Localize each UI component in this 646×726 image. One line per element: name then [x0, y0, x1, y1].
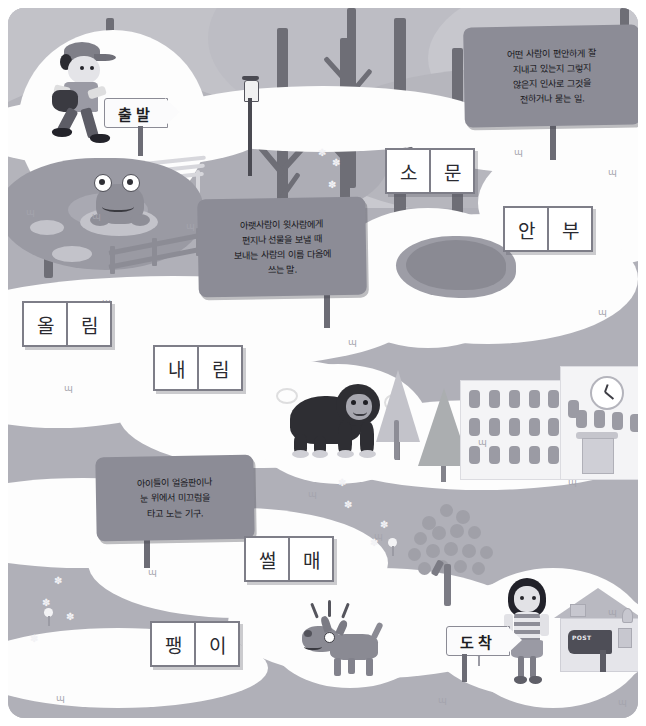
- word-cell[interactable]: 매: [288, 538, 332, 580]
- sign-line: 않은지 인사로 그것을: [513, 75, 591, 92]
- word-cell[interactable]: 림: [66, 303, 110, 345]
- window: [489, 418, 500, 436]
- word-cell[interactable]: 썰: [246, 538, 288, 580]
- word-box-paengi[interactable]: 팽 이: [150, 621, 240, 667]
- word-box-ollim[interactable]: 올 림: [22, 301, 112, 347]
- sign-line: 타고 노는 기구.: [147, 505, 204, 521]
- grass-tuft: ɰ: [568, 478, 577, 487]
- window: [548, 446, 559, 464]
- sign-line: 아랫사람이 윗사람에게: [240, 216, 323, 233]
- definition-sign-greeting-text: 어떤 사람이 편안하게 잘 지내고 있는지 그렇지 않은지 인사로 그것을 전하…: [463, 24, 638, 127]
- grass-tuft: ɰ: [438, 696, 447, 705]
- house: POST: [556, 588, 638, 674]
- window: [469, 418, 480, 436]
- window: [469, 390, 480, 408]
- school-building: [460, 366, 638, 478]
- snow-icon: ✽: [338, 478, 346, 488]
- clock-icon: [590, 376, 624, 410]
- sign-line: 어떤 사람이 편안하게 잘: [507, 45, 596, 62]
- barking-dog: [294, 600, 404, 680]
- window: [548, 418, 559, 436]
- snow-icon: ✽: [328, 180, 336, 190]
- puff-icon: [276, 388, 298, 404]
- window: [489, 390, 500, 408]
- bark-line: [341, 603, 350, 619]
- word-cell[interactable]: 소: [387, 150, 429, 192]
- snow-icon: ✽: [54, 576, 62, 586]
- worksheet-page: POST ɰ ɰ ɰ ɰ ɰ ɰ ɰ ɰ ɰ ɰ ɰ ɰ ɰ ɰ ɰ ɰ ɰ ɰ…: [0, 0, 646, 726]
- lily-pad: [30, 220, 64, 235]
- bark-line: [328, 600, 331, 617]
- word-cell[interactable]: 안: [505, 208, 547, 250]
- word-cell[interactable]: 이: [194, 623, 238, 665]
- start-sign: 출발: [104, 98, 188, 156]
- window: [548, 390, 559, 408]
- window: [489, 446, 500, 464]
- sign-line: 편지나 선물을 보낼 때: [241, 231, 322, 248]
- snow-icon: ✽: [66, 612, 74, 622]
- definition-sign-ollim-text: 아랫사람이 윗사람에게 편지나 선물을 보낼 때 보내는 사람의 이름 다음에 …: [197, 197, 367, 298]
- sign-line: 지내고 있는지 그렇지: [513, 60, 591, 77]
- start-sign-label: 출발: [104, 98, 168, 128]
- snow-icon: ✽: [332, 158, 340, 168]
- grass-tuft: ɰ: [56, 694, 65, 703]
- school-door[interactable]: [582, 438, 614, 474]
- grass-tuft: ɰ: [478, 438, 487, 447]
- window: [509, 446, 520, 464]
- grass-tuft: ɰ: [186, 222, 195, 231]
- grass-tuft: ɰ: [598, 308, 607, 317]
- bark-line: [310, 603, 319, 619]
- window: [529, 390, 540, 408]
- sign-line: 쓰는 말.: [267, 262, 297, 278]
- cave-interior: [406, 240, 506, 290]
- definition-sign-ollim: 아랫사람이 윗사람에게 편지나 선물을 보낼 때 보내는 사람의 이름 다음에 …: [198, 198, 368, 326]
- bell-icon: [622, 608, 633, 623]
- finish-sign-label: 도착: [446, 626, 510, 656]
- snow-icon: ✽: [42, 598, 50, 608]
- snow-icon: ✽: [30, 634, 38, 644]
- word-cell[interactable]: 부: [547, 208, 591, 250]
- mailbox-post: [600, 650, 606, 672]
- sign-line: 아이들이 얼음판이나: [137, 475, 212, 491]
- grass-tuft: ɰ: [348, 338, 357, 347]
- word-cell[interactable]: 림: [197, 347, 241, 389]
- grass-tuft: ɰ: [92, 212, 101, 221]
- window: [509, 390, 520, 408]
- window: [469, 446, 480, 464]
- window: [529, 418, 540, 436]
- grass-tuft: ɰ: [608, 608, 617, 617]
- word-cell[interactable]: 올: [24, 303, 66, 345]
- snow-icon: ✽: [318, 148, 326, 158]
- grass-tuft: ɰ: [26, 208, 35, 217]
- window: [576, 410, 587, 428]
- lily-pad: [52, 246, 92, 262]
- window: [529, 446, 540, 464]
- finish-sign: 도착: [446, 626, 530, 682]
- sign-line: 눈 위에서 미끄럼을: [140, 490, 210, 506]
- word-cell[interactable]: 팽: [152, 623, 194, 665]
- grass-tuft: ɰ: [308, 490, 317, 499]
- snow-icon: ✽: [380, 520, 388, 530]
- snow-icon: ✽: [344, 500, 352, 510]
- word-cell[interactable]: 문: [429, 150, 473, 192]
- game-board: POST ɰ ɰ ɰ ɰ ɰ ɰ ɰ ɰ ɰ ɰ ɰ ɰ ɰ ɰ ɰ ɰ ɰ ɰ…: [8, 8, 638, 718]
- grass-tuft: ɰ: [148, 568, 157, 577]
- grass-tuft: ɰ: [608, 168, 617, 177]
- word-box-naerim[interactable]: 내 림: [153, 345, 243, 391]
- window: [509, 418, 520, 436]
- sign-line: 보내는 사람의 이름 다음에: [234, 246, 331, 263]
- snow-icon: ✽: [370, 538, 378, 548]
- definition-sign-sled-text: 아이들이 얼음판이나 눈 위에서 미끄럼을 타고 노는 기구.: [95, 455, 254, 542]
- word-box-anbu[interactable]: 안 부: [503, 206, 593, 252]
- window: [594, 410, 605, 428]
- word-box-somun[interactable]: 소 문: [385, 148, 475, 194]
- mailbox-label: POST: [572, 634, 592, 641]
- word-cell[interactable]: 내: [155, 347, 197, 389]
- window: [630, 414, 638, 432]
- sign-line: 전하거나 묻는 일.: [520, 91, 585, 107]
- grass-tuft: ɰ: [64, 384, 73, 393]
- grass-tuft: ɰ: [618, 698, 627, 707]
- word-box-sseolmae[interactable]: 썰 매: [244, 536, 334, 582]
- definition-sign-greeting: 어떤 사람이 편안하게 잘 지내고 있는지 그렇지 않은지 인사로 그것을 전하…: [464, 26, 638, 156]
- definition-sign-sled: 아이들이 얼음판이나 눈 위에서 미끄럼을 타고 노는 기구.: [96, 456, 256, 566]
